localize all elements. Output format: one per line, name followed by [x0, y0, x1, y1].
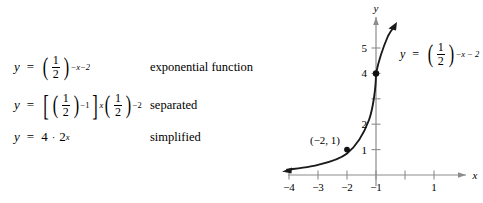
left-bracket: [	[43, 93, 49, 116]
point-marker-0-4	[373, 70, 379, 76]
step-label-simplified: simplified	[150, 130, 201, 145]
parenthesized-fraction: ( 1 2 )	[41, 54, 70, 80]
derivation-row: y = 4 · 2 x simplified	[0, 124, 265, 150]
equals-sign: =	[27, 97, 34, 113]
fraction-one-half: 1 2	[60, 92, 72, 118]
coordinate-plot: −4 −3 −2 −1 1 1 2 4 5 x y (−2, 1)	[270, 0, 483, 203]
parenthesized-fraction-second: ( 1 2 )	[103, 92, 132, 118]
parenthesized-fraction: ( 1 2 )	[51, 92, 80, 118]
equation-separated: y = [ ( 1 2 ) −1 ] x	[14, 92, 142, 118]
fraction-denominator: 2	[114, 105, 122, 119]
x-axis-arrowhead	[458, 172, 466, 178]
y-axis-label: y	[373, 2, 379, 14]
multiplication-dot: ·	[52, 131, 56, 143]
x-tick-label: −2	[341, 181, 353, 193]
point-marker-minus2-1	[344, 147, 350, 153]
parenthesized-fraction: ( 1 2 )	[426, 41, 455, 67]
point-label: (−2, 1)	[310, 134, 340, 147]
right-bracket: ]	[92, 93, 98, 116]
fraction-numerator: 1	[437, 41, 445, 54]
curve-equation-lhs: y	[400, 47, 405, 62]
right-paren: )	[73, 94, 78, 115]
right-paren: )	[448, 43, 453, 64]
x-tick-label: 1	[431, 181, 437, 193]
equation-exponential-function: y = ( 1 2 ) −x−2	[14, 54, 90, 80]
curve-arrowhead-up	[389, 22, 398, 31]
graph-panel: −4 −3 −2 −1 1 1 2 4 5 x y (−2, 1) y = ( …	[270, 0, 483, 203]
y-axis-arrowhead	[373, 17, 379, 25]
x-tick-label: −1	[370, 181, 382, 193]
x-tick-label: −4	[283, 181, 295, 193]
base: 2	[59, 129, 66, 145]
y-tick-label: 4	[362, 67, 368, 79]
equals-sign: =	[412, 47, 419, 62]
fraction-denominator: 2	[437, 54, 445, 68]
equals-sign: =	[27, 129, 34, 145]
left-paren: (	[53, 94, 58, 115]
equation-lhs: y	[14, 59, 20, 75]
left-paren: (	[428, 43, 433, 64]
fraction-numerator: 1	[62, 92, 70, 105]
x-tick-label: −3	[312, 181, 324, 193]
step-label-exponential-function: exponential function	[150, 60, 253, 75]
x-axis-label: x	[472, 169, 478, 181]
derivation-block: y = ( 1 2 ) −x−2 exponential function y …	[0, 48, 265, 150]
fraction-denominator: 2	[62, 105, 70, 119]
curve-arrowhead-left	[282, 168, 292, 174]
fraction-numerator: 1	[114, 92, 122, 105]
derivation-row: y = [ ( 1 2 ) −1 ] x	[0, 86, 265, 124]
equals-sign: =	[27, 59, 34, 75]
y-tick-label: 2	[362, 118, 368, 130]
left-paren: (	[105, 94, 110, 115]
fraction-one-half: 1 2	[435, 41, 447, 67]
y-tick-label: 5	[362, 42, 368, 54]
figure-root: y = ( 1 2 ) −x−2 exponential function y …	[0, 0, 483, 203]
bracketed-group: [ ( 1 2 ) −1 ]	[41, 92, 99, 118]
fraction-one-half: 1 2	[112, 92, 124, 118]
right-paren: )	[126, 94, 131, 115]
left-paren: (	[43, 56, 48, 77]
step-label-separated: separated	[150, 98, 197, 113]
right-paren: )	[63, 56, 68, 77]
equation-lhs: y	[14, 97, 20, 113]
equation-lhs: y	[14, 129, 20, 145]
fraction-one-half: 1 2	[50, 54, 62, 80]
fraction-denominator: 2	[52, 67, 60, 81]
equation-simplified: y = 4 · 2 x	[14, 129, 70, 145]
y-tick-label: 1	[362, 144, 368, 156]
fraction-numerator: 1	[52, 54, 60, 67]
derivation-row: y = ( 1 2 ) −x−2 exponential function	[0, 48, 265, 86]
curve-equation-annotation: y = ( 1 2 ) −x − 2	[400, 41, 479, 67]
coefficient: 4	[41, 129, 48, 145]
